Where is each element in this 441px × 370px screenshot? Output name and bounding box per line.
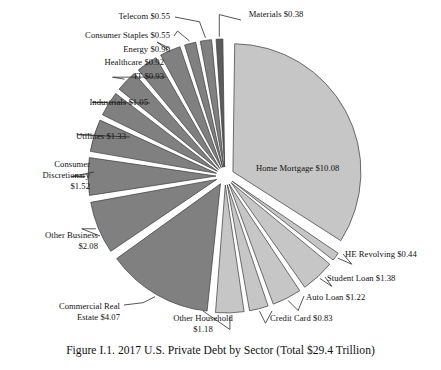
slice-label-credit-card: Credit Card $0.83	[270, 313, 380, 323]
slice-label-utilities: Utilities $1.33	[6, 131, 126, 141]
figure-caption: Figure I.1. 2017 U.S. Private Debt by Se…	[0, 344, 441, 357]
slice-label-home-mortgage: Home Mortgage $10.08	[256, 163, 366, 173]
slice-label-student-loan: Student Loan $1.38	[327, 273, 441, 283]
leader-line-consumer-staples	[174, 31, 190, 41]
leader-line-auto-loan	[288, 296, 304, 311]
slice-label-it: IT $0.93	[38, 71, 164, 81]
slice-label-commercial-real-estate-line1: Commercial Real	[16, 301, 120, 311]
slice-label-other-business-line2: $2.08	[8, 241, 98, 251]
leader-line-telecom	[175, 17, 206, 38]
slice-label-other-household-line1: Other Household	[150, 313, 256, 323]
slice-label-other-household-line2: $1.18	[150, 324, 256, 334]
figure-container: Materials $0.38 Telecom $0.55 Consumer S…	[0, 0, 441, 370]
slice-label-other-business-line1: Other Business	[8, 230, 98, 240]
slice-label-consumer-discretionary-line1: Consumer	[4, 159, 90, 169]
slice-label-consumer-discretionary-line3: $1.52	[4, 181, 90, 191]
leader-line-commercial-real-estate	[124, 297, 155, 305]
slice-label-materials: Materials $0.38	[228, 9, 324, 19]
slice-label-telecom: Telecom $0.55	[72, 11, 170, 21]
slice-label-healthcare: Healthcare $0.92	[32, 57, 164, 67]
slice-label-consumer-discretionary-line2: Discretionary	[4, 170, 90, 180]
slice-label-energy: Energy $0.90	[38, 44, 170, 54]
slice-label-industrials: Industrials $1.05	[12, 97, 148, 107]
slice-label-commercial-real-estate-line2: Estate $4.07	[16, 312, 120, 322]
slice-label-consumer-staples: Consumer Staples $0.55	[30, 30, 170, 40]
slice-label-he-revolving: HE Revolving $0.44	[345, 249, 441, 259]
slice-label-auto-loan: Auto Loan $1.22	[306, 292, 418, 302]
